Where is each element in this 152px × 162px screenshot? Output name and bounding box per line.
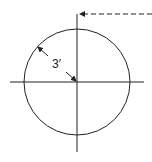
radius-arrow-outer (38, 47, 48, 56)
radius-label: 3′ (52, 57, 62, 71)
diagram-canvas: 3′ (0, 0, 152, 162)
radius-arrow-inner (66, 72, 76, 81)
